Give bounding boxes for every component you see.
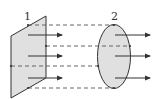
diagram-figure: 1 2 (0, 0, 157, 99)
surface-1-parallelogram (11, 16, 46, 98)
dot-4 (129, 45, 131, 47)
dot-6 (97, 65, 99, 67)
dot-3 (45, 45, 47, 47)
dot-8 (113, 87, 115, 89)
dot-7 (27, 87, 29, 89)
surface-1-label: 1 (24, 10, 31, 23)
dot-5 (10, 65, 12, 67)
dot-2 (113, 24, 115, 26)
dot-1 (27, 24, 29, 26)
surface-2-label: 2 (111, 10, 118, 23)
